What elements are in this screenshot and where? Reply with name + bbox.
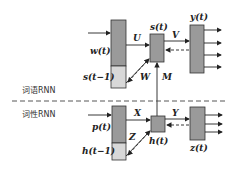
label-W: W xyxy=(140,72,151,82)
input-layer-w xyxy=(111,20,126,66)
label-Y: Y xyxy=(172,108,180,118)
label-X: X xyxy=(133,108,142,118)
output-layer-z xyxy=(190,107,205,140)
section-pos-rnn: 词性RNN xyxy=(22,109,56,119)
hidden-layer-s xyxy=(150,34,164,62)
hidden-layer-h xyxy=(151,116,165,132)
label-U: U xyxy=(133,33,142,43)
section-word-rnn: 词语RNN xyxy=(22,85,56,95)
label-p: p(t) xyxy=(92,122,111,132)
label-M: M xyxy=(161,72,173,82)
label-h-prev: h(t−1) xyxy=(82,146,115,156)
label-h: h(t) xyxy=(149,136,168,146)
rnn-diagram: w(t) s(t−1) s(t) y(t) U W V M 词语RNN 词性RN… xyxy=(0,0,234,170)
label-s: s(t) xyxy=(150,22,168,32)
label-Z: Z xyxy=(128,132,136,142)
label-s-prev: s(t−1) xyxy=(83,72,115,82)
output-layer-y xyxy=(190,25,204,73)
input-layer-p xyxy=(112,106,126,143)
label-z: z(t) xyxy=(189,143,208,153)
label-w: w(t) xyxy=(90,46,110,56)
label-y: y(t) xyxy=(189,12,208,22)
label-V: V xyxy=(172,30,180,40)
